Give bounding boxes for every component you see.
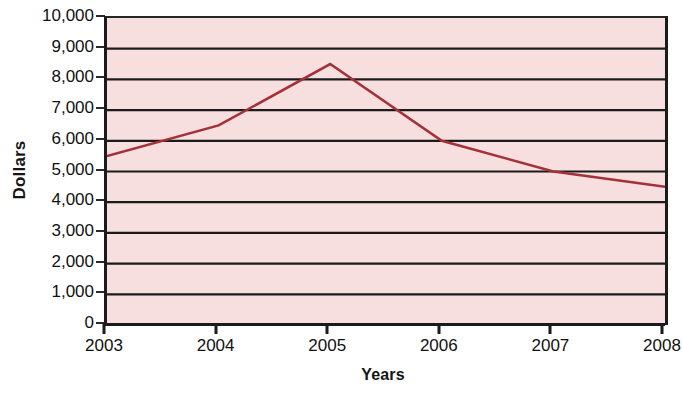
data-series-line xyxy=(107,64,665,187)
x-axis-tick-label: 2005 xyxy=(308,336,346,356)
plot-svg xyxy=(107,18,665,325)
x-axis-tick-label: 2006 xyxy=(420,336,458,356)
gridlines-group xyxy=(107,49,665,325)
x-axis-title: Years xyxy=(104,366,662,384)
y-axis-tick-marks xyxy=(0,0,110,340)
x-axis-tick-mark xyxy=(214,323,217,334)
x-axis-tick-mark xyxy=(103,323,106,334)
x-axis-tick-mark xyxy=(661,323,664,334)
x-axis-tick-mark xyxy=(437,323,440,334)
x-axis-tick-label: 2008 xyxy=(643,336,681,356)
x-axis-tick-label: 2007 xyxy=(531,336,569,356)
x-axis-tick-marks xyxy=(0,323,682,337)
x-axis-tick-labels: 200320042005200620072008 xyxy=(0,336,682,364)
line-chart-figure: Dollars 10,0009,0008,0007,0006,0005,0004… xyxy=(0,0,682,394)
x-axis-tick-mark xyxy=(549,323,552,334)
data-series-group xyxy=(107,64,665,187)
x-axis-tick-label: 2004 xyxy=(197,336,235,356)
x-axis-tick-mark xyxy=(326,323,329,334)
plot-area xyxy=(104,16,668,325)
x-axis-tick-label: 2003 xyxy=(85,336,123,356)
